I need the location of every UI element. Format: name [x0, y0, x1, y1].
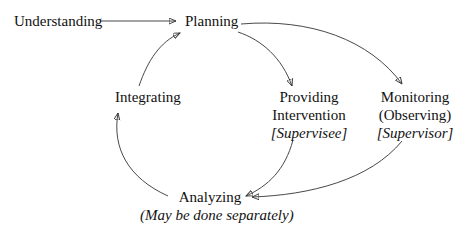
- node-providing-intervention: Providing Intervention [Supervisee]: [268, 88, 350, 142]
- node-monitoring-role: [Supervisor]: [376, 124, 454, 142]
- node-monitoring-line2: (Observing): [376, 106, 454, 124]
- node-planning: Planning: [185, 12, 238, 30]
- edge-planning-to-monitoring: [241, 23, 402, 84]
- node-providing-line1: Providing: [268, 88, 350, 106]
- node-providing-role: [Supervisee]: [268, 124, 350, 142]
- node-monitoring: Monitoring (Observing) [Supervisor]: [376, 88, 454, 142]
- edge-integrating-to-planning: [139, 33, 180, 86]
- node-planning-label: Planning: [185, 12, 238, 30]
- node-analyzing: Analyzing (May be done separately): [140, 188, 280, 224]
- node-monitoring-line1: Monitoring: [376, 88, 454, 106]
- node-analyzing-label: Analyzing: [140, 188, 280, 206]
- node-analyzing-note: (May be done separately): [140, 206, 280, 224]
- supervision-cycle-diagram: Understanding Planning Integrating Provi…: [0, 0, 463, 232]
- edge-analyzing-to-integrating: [117, 113, 168, 196]
- edge-planning-to-providing: [238, 32, 292, 86]
- node-understanding: Understanding: [14, 12, 102, 30]
- node-providing-line2: Intervention: [268, 106, 350, 124]
- node-understanding-label: Understanding: [14, 12, 102, 30]
- node-integrating-label: Integrating: [115, 88, 181, 106]
- node-integrating: Integrating: [115, 88, 181, 106]
